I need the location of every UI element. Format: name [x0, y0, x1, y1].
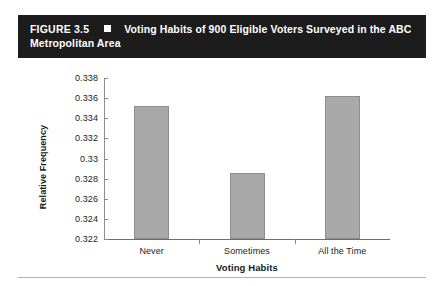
white-square-bullet-icon: [104, 25, 111, 32]
bar-never: [134, 106, 169, 239]
figure-number: FIGURE 3.5: [30, 23, 89, 35]
y-axis-tick-label: 0.326: [52, 194, 98, 204]
x-axis-line: [104, 239, 390, 240]
y-axis-tick-label: 0.33: [52, 154, 98, 164]
y-axis-tick-mark: [104, 138, 108, 139]
x-axis-tick-label: Sometimes: [199, 246, 294, 256]
y-axis-tick-label: 0.328: [52, 174, 98, 184]
figure-banner: FIGURE 3.5 Voting Habits of 900 Eligible…: [18, 15, 426, 58]
figure-banner-line-1: FIGURE 3.5 Voting Habits of 900 Eligible…: [30, 22, 416, 36]
bar-all-the-time: [325, 96, 360, 239]
y-axis-tick-mark: [104, 219, 108, 220]
y-axis-tick-label: 0.338: [52, 73, 98, 83]
x-axis-tick-label: All the Time: [295, 246, 390, 256]
figure-bottom-rule: [18, 277, 426, 278]
x-axis-tick-mark: [295, 239, 296, 244]
y-axis-title: Relative Frequency: [38, 107, 48, 227]
x-axis-tick-label: Never: [104, 246, 199, 256]
y-axis-tick-mark: [104, 239, 108, 240]
y-axis-tick-labels: 0.3380.3360.3340.3320.330.3280.3260.3240…: [52, 62, 98, 242]
y-axis-tick-mark: [104, 159, 108, 160]
figure-title-line-1: Voting Habits of 900 Eligible Voters Sur…: [124, 23, 411, 35]
bar-chart: Relative Frequency 0.3380.3360.3340.3320…: [0, 62, 444, 262]
figure-title-line-2: Metropolitan Area: [30, 36, 416, 50]
y-axis-tick-mark: [104, 118, 108, 119]
y-axis-tick-label: 0.324: [52, 214, 98, 224]
x-axis-title: Voting Habits: [104, 262, 390, 273]
y-axis-tick-mark: [104, 179, 108, 180]
y-axis-tick-label: 0.336: [52, 93, 98, 103]
y-axis-tick-label: 0.334: [52, 113, 98, 123]
y-axis-tick-mark: [104, 78, 108, 79]
y-axis-tick-mark: [104, 199, 108, 200]
y-axis-tick-label: 0.332: [52, 133, 98, 143]
bar-sometimes: [230, 173, 265, 239]
y-axis-tick-label: 0.322: [52, 234, 98, 244]
x-axis-tick-mark: [199, 239, 200, 244]
y-axis-tick-mark: [104, 98, 108, 99]
